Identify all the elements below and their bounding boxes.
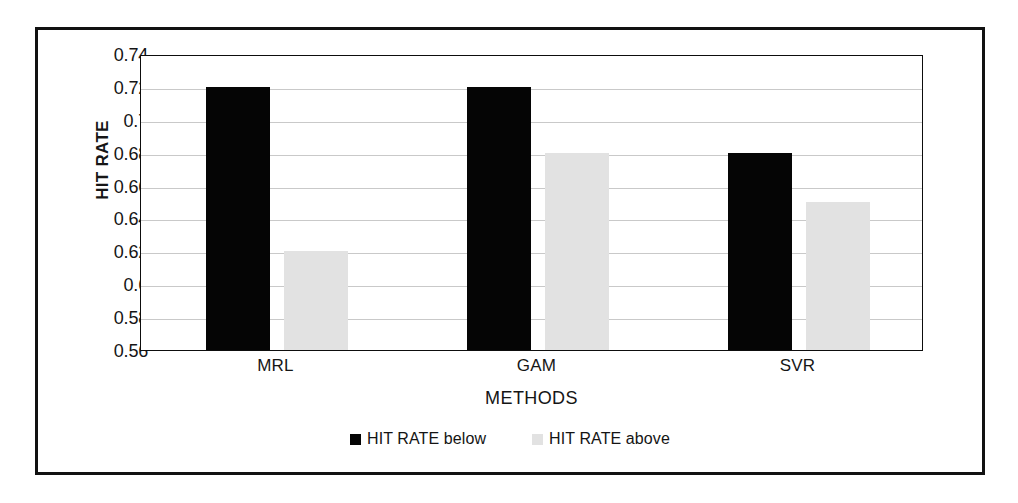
bar-group (141, 56, 923, 350)
x-axis-title: METHODS (140, 388, 923, 409)
legend-entry[interactable]: HIT RATE below (350, 430, 486, 448)
x-axis-tick-labels: MRLGAMSVR (140, 356, 923, 384)
legend-entry[interactable]: HIT RATE above (532, 430, 670, 448)
plot-area (140, 55, 923, 351)
legend-swatch-icon (532, 434, 543, 445)
chart-figure-frame: HIT RATE 0.740.720.70.680.660.640.620.60… (35, 27, 985, 475)
chart-legend: HIT RATE belowHIT RATE above (38, 430, 982, 448)
legend-label: HIT RATE below (367, 430, 486, 448)
bars-layer (141, 56, 922, 350)
y-axis-tick-labels: 0.740.720.70.680.660.640.620.60.580.56 (86, 55, 148, 351)
bar-svr-above[interactable] (806, 202, 870, 350)
x-tick-label: MRL (257, 356, 294, 376)
legend-label: HIT RATE above (549, 430, 670, 448)
x-tick-label: GAM (517, 356, 556, 376)
legend-swatch-icon (350, 434, 361, 445)
bar-svr-below[interactable] (728, 153, 792, 350)
x-tick-label: SVR (780, 356, 816, 376)
